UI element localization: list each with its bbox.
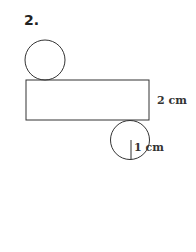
problem-number: 2. xyxy=(24,12,39,28)
radius-label: 1 cm xyxy=(134,141,164,154)
top-circle xyxy=(25,40,65,80)
rectangle-lateral-face xyxy=(26,80,149,120)
cylinder-net-diagram: 2. 2 cm 1 cm xyxy=(0,0,196,252)
height-label: 2 cm xyxy=(157,94,187,107)
